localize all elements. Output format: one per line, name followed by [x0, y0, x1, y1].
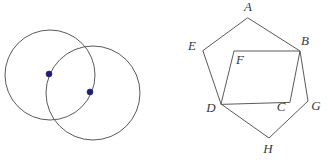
vertex-label-F: F: [235, 52, 245, 67]
circle-left-center-dot: [46, 71, 52, 77]
figure-canvas: A B G H D E F C: [0, 0, 328, 164]
vertex-labels-group: A B G H D E F C: [187, 0, 321, 156]
inner-parallelogram: [221, 51, 300, 104]
geometry-figure: A B G H D E F C: [0, 0, 328, 164]
vertex-label-D: D: [205, 100, 216, 115]
circle-right-center-dot: [87, 89, 93, 95]
pentagon-group: [203, 18, 308, 138]
outer-pentagon: [203, 18, 308, 138]
vertex-label-B: B: [301, 33, 309, 48]
vertex-label-G: G: [311, 98, 321, 113]
vertex-label-C: C: [277, 99, 286, 114]
intersecting-circles-group: [5, 30, 140, 140]
vertex-label-H: H: [262, 141, 273, 156]
vertex-label-A: A: [243, 0, 252, 14]
vertex-label-E: E: [187, 38, 196, 53]
